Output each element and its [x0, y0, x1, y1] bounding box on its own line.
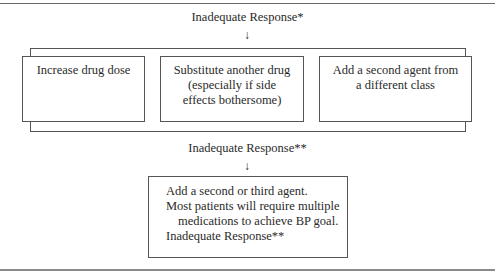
- final-step-box: Add a second or third agent. Most patien…: [148, 176, 348, 258]
- top-rule: [0, 3, 495, 4]
- down-arrow-icon: ↓: [241, 160, 253, 172]
- option-text: Substitute another drug (especially if s…: [161, 57, 303, 108]
- final-line: Inadequate Response**: [166, 229, 347, 244]
- option-line: Substitute another drug: [161, 63, 303, 78]
- option-line: Increase drug dose: [23, 63, 144, 78]
- final-line: Add a second or third agent.: [166, 184, 347, 199]
- option-text: Increase drug dose: [23, 57, 144, 78]
- option-line: (especially if side: [161, 78, 303, 93]
- option-box-increase-dose: Increase drug dose: [22, 56, 145, 122]
- inadequate-response-1-label: Inadequate Response*: [0, 10, 495, 25]
- final-line: medications to achieve BP goal.: [166, 214, 347, 229]
- inadequate-response-2-label: Inadequate Response**: [0, 141, 495, 156]
- option-line: a different class: [320, 78, 471, 93]
- down-arrow-icon: ↓: [241, 29, 253, 41]
- option-text: Add a second agent from a different clas…: [320, 57, 471, 93]
- option-line: effects bothersome): [161, 93, 303, 108]
- final-step-text: Add a second or third agent. Most patien…: [149, 177, 347, 244]
- final-line: Most patients will require multiple: [166, 199, 347, 214]
- option-box-add-second-agent: Add a second agent from a different clas…: [319, 56, 472, 122]
- option-line: Add a second agent from: [320, 63, 471, 78]
- option-box-substitute-drug: Substitute another drug (especially if s…: [160, 56, 304, 122]
